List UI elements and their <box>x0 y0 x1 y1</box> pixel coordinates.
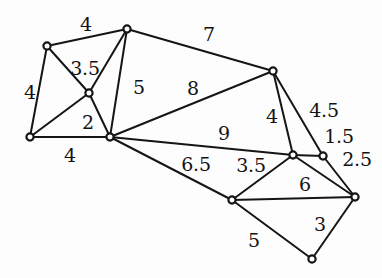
edge-weight-label: 8 <box>187 79 199 98</box>
edge-weight-label: 3.5 <box>70 59 100 78</box>
edge-weight-label: 1.5 <box>324 127 354 146</box>
graph-node <box>351 193 358 200</box>
edge-weight-label: 6 <box>299 175 311 194</box>
graph-node <box>308 255 315 262</box>
graph-node <box>85 89 92 96</box>
edge-weight-label: 9 <box>218 124 230 143</box>
edge-weight-label: 7 <box>203 25 215 44</box>
edge-weight-label: 5 <box>133 78 145 97</box>
graph-node <box>26 133 33 140</box>
edge-weight-label: 4 <box>24 83 36 102</box>
graph-edge <box>232 197 355 200</box>
edge-weight-label: 4 <box>80 15 92 34</box>
edge-weight-label: 4 <box>64 146 76 165</box>
edge-weight-label: 3.5 <box>236 156 266 175</box>
edge-weight-label: 3 <box>314 215 326 234</box>
edge-weight-label: 6.5 <box>181 155 211 174</box>
edge-weight-label: 2 <box>82 113 94 132</box>
weighted-graph-figure: 443.55724896.544.51.53.562.553 <box>0 0 382 278</box>
graph-node <box>123 25 130 32</box>
graph-node <box>289 151 296 158</box>
edge-weight-label: 4.5 <box>309 101 339 120</box>
edge-weight-label: 4 <box>266 107 278 126</box>
graph-edge <box>232 200 312 259</box>
graph-edge <box>30 93 89 137</box>
edge-weight-label: 2.5 <box>342 150 372 169</box>
graph-node <box>43 42 50 49</box>
graph-node <box>269 67 276 74</box>
graph-node <box>228 196 235 203</box>
graph-node <box>319 152 326 159</box>
edge-weight-label: 5 <box>248 231 260 250</box>
graph-edge <box>127 29 273 71</box>
graph-node <box>106 133 113 140</box>
